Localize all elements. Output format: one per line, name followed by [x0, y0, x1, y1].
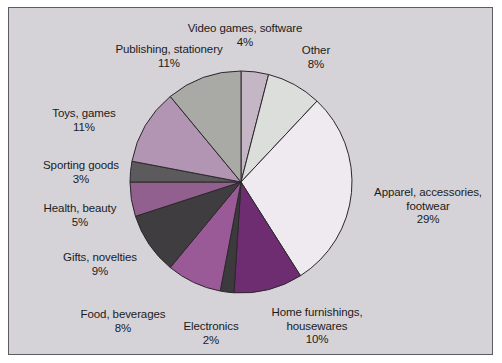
label-publishing-name: Publishing, stationery [96, 43, 242, 57]
label-food-pct: 8% [67, 322, 179, 336]
label-gifts-novelties: Gifts, novelties 9% [46, 251, 154, 278]
label-apparel: Apparel, accessories, footwear 29% [364, 186, 492, 227]
label-gifts-name: Gifts, novelties [46, 251, 154, 265]
chart-panel: Video games, software 4% Other 8% Appare… [8, 7, 493, 355]
label-electronics: Electronics 2% [171, 320, 251, 347]
label-food-beverages: Food, beverages 8% [67, 308, 179, 335]
label-home-furnishings: Home furnishings, housewares 10% [255, 306, 379, 347]
label-gifts-pct: 9% [46, 265, 154, 279]
label-health-pct: 5% [28, 216, 132, 230]
label-toys-pct: 11% [36, 121, 132, 135]
label-other-name: Other [281, 44, 351, 58]
label-electronics-name: Electronics [171, 320, 251, 334]
label-electronics-pct: 2% [171, 334, 251, 348]
label-health-name: Health, beauty [28, 202, 132, 216]
label-toys-games: Toys, games 11% [36, 107, 132, 134]
label-health-beauty: Health, beauty 5% [28, 202, 132, 229]
label-other-pct: 8% [281, 58, 351, 72]
label-home-pct: 10% [255, 333, 379, 347]
label-apparel-line2: footwear [364, 200, 492, 214]
label-sporting-goods: Sporting goods 3% [26, 159, 136, 186]
label-apparel-pct: 29% [364, 213, 492, 227]
pie-slices-group [130, 71, 352, 293]
label-home-line1: Home furnishings, [255, 306, 379, 320]
label-apparel-line1: Apparel, accessories, [364, 186, 492, 200]
label-other: Other 8% [281, 44, 351, 71]
label-sporting-name: Sporting goods [26, 159, 136, 173]
label-home-line2: housewares [255, 320, 379, 334]
label-sporting-pct: 3% [26, 173, 136, 187]
label-publishing-pct: 11% [96, 57, 242, 71]
label-video-games-name: Video games, software [165, 22, 325, 36]
label-toys-name: Toys, games [36, 107, 132, 121]
label-food-name: Food, beverages [67, 308, 179, 322]
label-publishing-stationery: Publishing, stationery 11% [96, 43, 242, 70]
figure-canvas: Video games, software 4% Other 8% Appare… [0, 0, 502, 363]
